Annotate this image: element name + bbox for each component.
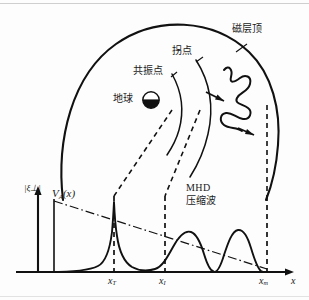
alfven-argument: (x) (63, 187, 75, 199)
figure-canvas: 磁层顶 拐点 共振点 地球 MHD 压缩波 |ξ⊥| VA(x) xT xI x… (0, 0, 309, 300)
diagram-svg (0, 0, 309, 300)
resonance-point-arc (167, 74, 182, 155)
label-x-axis: x (291, 276, 295, 286)
projection-line-xt (114, 110, 172, 196)
alfven-speed-profile (54, 201, 267, 269)
turning-point-arc (190, 60, 211, 177)
alfven-symbol: V (52, 187, 59, 199)
wave-packet-squiggle (221, 68, 251, 131)
tick-label-xi: xI (159, 276, 166, 287)
tick-xm-sub: m (263, 279, 267, 286)
label-earth: 地球 (113, 94, 133, 104)
tick-xi-sub: I (163, 279, 165, 286)
wave-arrow-upper (206, 92, 224, 101)
label-compressional-wave: 压缩波 (186, 196, 216, 206)
earth-symbol (143, 92, 159, 108)
tick-label-xm: xm (259, 276, 268, 287)
label-mhd: MHD (186, 183, 211, 193)
amplitude-curve (50, 202, 267, 272)
label-resonance-point: 共振点 (133, 66, 163, 76)
label-magnetopause: 磁层顶 (232, 24, 262, 34)
wave-arrow-lower (238, 128, 254, 135)
label-alfven-profile: VA(x) (52, 188, 75, 200)
tick-xt-sub: T (112, 279, 115, 286)
leader-turning-point (196, 57, 203, 62)
label-turning-point: 拐点 (172, 46, 192, 56)
y-axis (34, 186, 41, 272)
label-y-axis: |ξ⊥| (24, 184, 41, 193)
tick-label-xt: xT (108, 276, 116, 287)
